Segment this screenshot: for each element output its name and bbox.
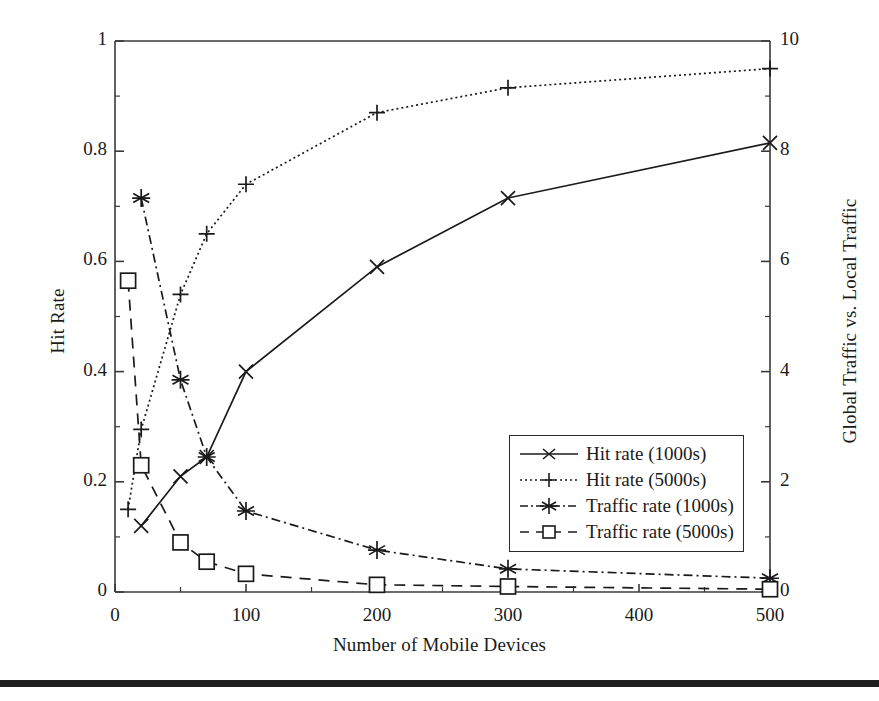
x-tick-label: 500 [735, 604, 805, 626]
legend-swatch-traffic-rate-5000s [518, 522, 580, 542]
data-point-marker [501, 579, 516, 594]
x-tick-label: 100 [211, 604, 281, 626]
data-point-marker [499, 560, 517, 578]
data-point-marker [121, 273, 136, 288]
data-point-marker [134, 519, 148, 533]
x-axis-title: Number of Mobile Devices [0, 634, 879, 656]
data-point-marker [239, 365, 253, 379]
data-point-marker [132, 189, 150, 207]
legend-item: Traffic rate (5000s) [518, 519, 734, 545]
data-point-marker [134, 458, 149, 473]
data-point-marker [237, 502, 255, 520]
legend-swatch-traffic-rate-1000s [518, 496, 580, 516]
legend-label: Hit rate (5000s) [580, 469, 706, 491]
legend-label: Traffic rate (5000s) [580, 521, 734, 543]
y-tick-label-left: 0.6 [47, 248, 107, 270]
data-point-marker [370, 260, 384, 274]
y-axis-title-right: Global Traffic vs. Local Traffic [839, 151, 861, 491]
chart-plot-area [0, 0, 879, 701]
x-tick-label: 200 [342, 604, 412, 626]
legend-label: Traffic rate (1000s) [580, 495, 734, 517]
y-tick-label-right: 4 [780, 359, 840, 381]
data-point-marker [133, 421, 149, 437]
data-point-marker [370, 577, 385, 592]
data-point-marker [199, 554, 214, 569]
y-tick-label-right: 2 [780, 469, 840, 491]
y-tick-label-right: 8 [780, 138, 840, 160]
data-point-marker [500, 80, 516, 96]
legend-item: Traffic rate (1000s) [518, 493, 734, 519]
y-tick-label-left: 0.8 [47, 138, 107, 160]
data-point-marker [368, 541, 386, 559]
x-tick-label: 400 [604, 604, 674, 626]
y-tick-label-right: 6 [780, 248, 840, 270]
y-tick-label-right: 10 [780, 28, 840, 50]
legend-swatch-hit-rate-1000s [518, 444, 580, 464]
chart-legend: Hit rate (1000s) Hit rate (5000s) Traffi… [509, 435, 744, 552]
data-point-marker [239, 566, 254, 581]
data-point-marker [173, 535, 188, 550]
data-point-marker [238, 176, 254, 192]
data-point-marker [762, 61, 778, 77]
legend-item: Hit rate (1000s) [518, 441, 734, 467]
data-point-marker [174, 469, 188, 483]
y-tick-label-left: 0.2 [47, 469, 107, 491]
legend-label: Hit rate (1000s) [580, 443, 706, 465]
data-point-marker [763, 582, 778, 597]
data-point-marker [369, 105, 385, 121]
y-tick-label-left: 0 [47, 579, 107, 601]
x-tick-label: 300 [473, 604, 543, 626]
y-tick-label-right: 0 [780, 579, 840, 601]
data-point-marker [172, 371, 190, 389]
data-point-marker [501, 191, 515, 205]
legend-swatch-hit-rate-5000s [518, 470, 580, 490]
y-tick-label-left: 0.4 [47, 359, 107, 381]
data-point-marker [173, 286, 189, 302]
legend-item: Hit rate (5000s) [518, 467, 734, 493]
y-tick-label-left: 1 [47, 28, 107, 50]
chart-figure: Number of Mobile Devices Hit Rate Global… [0, 0, 879, 701]
footer-rule [0, 680, 879, 687]
data-point-marker [120, 501, 136, 517]
x-tick-label: 0 [80, 604, 150, 626]
data-point-marker [199, 226, 215, 242]
